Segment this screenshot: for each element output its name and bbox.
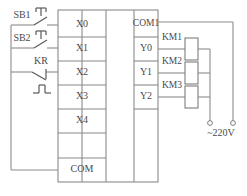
pushbutton-sb2[interactable]: SB2: [11, 31, 58, 48]
device-label-sb1: SB1: [13, 9, 30, 20]
device-label-km3: KM3: [162, 80, 182, 90]
device-label-km1: KM1: [162, 32, 182, 42]
terminal-label-x0: X0: [76, 18, 88, 29]
supply-terminal-right: [231, 121, 236, 126]
device-label-kr: KR: [34, 55, 48, 66]
input-common-rail: [11, 25, 58, 170]
terminal-label-com: COM: [71, 163, 94, 174]
device-label-sb2: SB2: [13, 32, 30, 43]
plc-wiring-diagram: X0 X1 X2 X3 X4 COM COM1 Y0 Y1 Y2: [0, 0, 247, 196]
thermal-overload-kr[interactable]: KR: [11, 55, 58, 93]
contactor-coil-km3[interactable]: KM3: [158, 80, 210, 108]
power-supply-220v: ~220V: [207, 121, 235, 139]
terminal-label-y2: Y2: [140, 90, 152, 101]
terminal-label-x2: X2: [76, 66, 88, 77]
power-supply-label: ~220V: [207, 127, 235, 138]
supply-terminal-left: [208, 121, 213, 126]
plc-output-terminal-block: COM1 Y0 Y1 Y2: [133, 18, 160, 109]
terminal-label-com1: COM1: [133, 18, 160, 28]
terminal-label-y1: Y1: [140, 66, 152, 77]
terminal-label-x1: X1: [76, 42, 88, 53]
pushbutton-sb1[interactable]: SB1: [11, 8, 58, 25]
terminal-label-y0: Y0: [140, 42, 152, 53]
terminal-label-x3: X3: [76, 90, 88, 101]
device-label-km2: KM2: [162, 56, 182, 66]
terminal-label-x4: X4: [76, 114, 88, 125]
